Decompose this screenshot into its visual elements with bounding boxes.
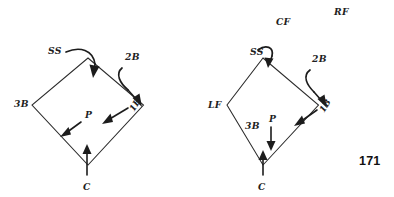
right-label-3b: 3B xyxy=(245,120,260,131)
right-label-rf: RF xyxy=(333,6,350,17)
left-label-c: C xyxy=(83,181,91,192)
right-p-arrow xyxy=(267,127,276,151)
right-diamond-outline xyxy=(227,58,319,165)
right-diamond-group: CF RF SS 2B LF 3B 1B P C xyxy=(207,6,350,192)
baseball-diagram-figure: SS 2B 3B 1B P C xyxy=(0,0,394,197)
left-c-arrow xyxy=(83,144,92,175)
right-label-lf: LF xyxy=(207,99,223,110)
right-label-c: C xyxy=(258,181,266,192)
left-label-p: P xyxy=(84,109,93,120)
left-1b-arrow xyxy=(102,108,128,124)
right-1b-arrow xyxy=(294,110,317,126)
right-c-arrow xyxy=(259,150,268,175)
left-label-1b: 1B xyxy=(127,96,143,113)
right-label-p: P xyxy=(268,113,277,124)
right-label-2b: 2B xyxy=(311,53,327,64)
left-p-arrow xyxy=(60,122,81,137)
left-ss-arrow xyxy=(66,49,100,78)
left-diamond-group: SS 2B 3B 1B P C xyxy=(14,45,144,192)
page-number: 171 xyxy=(359,154,380,168)
left-label-ss: SS xyxy=(48,45,62,56)
left-label-2b: 2B xyxy=(124,51,140,62)
left-label-3b: 3B xyxy=(14,98,29,109)
right-label-ss: SS xyxy=(250,46,264,57)
right-label-cf: CF xyxy=(276,16,292,27)
figure-page: SS 2B 3B 1B P C xyxy=(0,0,394,197)
